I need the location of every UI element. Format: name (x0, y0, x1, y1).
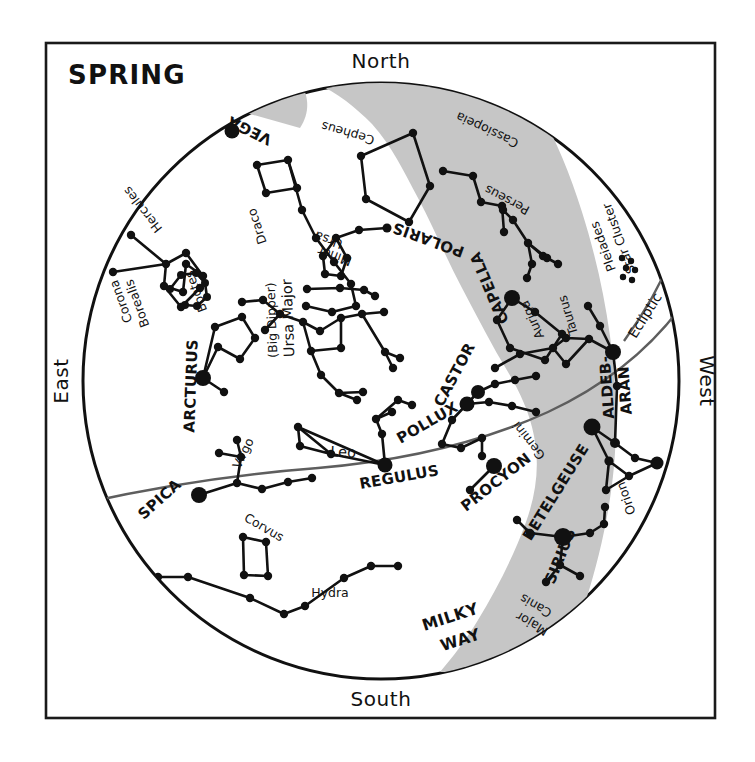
star-dot-castor (471, 385, 485, 399)
star-dot-polaris (383, 224, 392, 233)
star-dot-spica (191, 487, 207, 503)
star-dot-betelgeuse (584, 419, 601, 436)
star-dot-pollux (460, 397, 475, 412)
label-leo: Leo (330, 444, 356, 461)
label-arcturus: ARCTURUS (180, 339, 201, 433)
cardinal-south: South (350, 687, 411, 711)
label-aldebaran-part2: ARAN (614, 366, 635, 416)
star-dot-capella (504, 290, 520, 306)
star-chart-page: SPRING North South East West Cassiopeia … (0, 0, 755, 762)
star-chart-svg: SPRING North South East West Cassiopeia … (0, 0, 755, 762)
season-title: SPRING (68, 60, 186, 90)
cardinal-east: East (49, 358, 73, 404)
label-big-dipper: (Big Dipper) (263, 282, 281, 358)
label-ursa-major: Ursa Major (279, 279, 298, 357)
cardinal-west: West (695, 355, 719, 407)
cardinal-north: North (352, 49, 411, 73)
label-hydra: Hydra (311, 585, 349, 600)
